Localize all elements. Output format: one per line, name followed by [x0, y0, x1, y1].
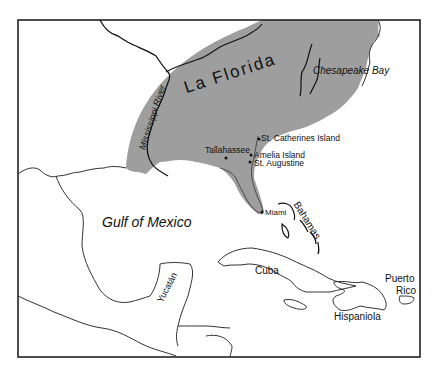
jamaica-outline	[284, 299, 306, 309]
hispaniola-label: Hispaniola	[334, 312, 381, 322]
st-augustine-marker	[249, 161, 252, 164]
hispaniola-outline	[333, 281, 386, 310]
gulf-label: Gulf of Mexico	[102, 215, 191, 229]
rico-label: Rico	[396, 286, 416, 296]
st-augustine-label: St. Augustine	[254, 159, 304, 168]
puerto-label: Puerto	[385, 274, 414, 284]
central-america-coast	[18, 296, 232, 357]
chesapeake-label: Chesapeake Bay	[313, 66, 389, 76]
gulf-coast-west	[18, 167, 126, 177]
tallahassee-label: Tallahassee	[205, 146, 250, 155]
la-florida-region	[126, 20, 380, 214]
puerto-rico-outline	[399, 296, 414, 304]
miami-label: Miami	[265, 209, 286, 217]
miami-marker	[261, 211, 264, 214]
cuba-label: Cuba	[255, 266, 279, 276]
tallahassee-marker	[225, 157, 228, 160]
st-catherines-label: St. Catherines Island	[261, 134, 340, 143]
